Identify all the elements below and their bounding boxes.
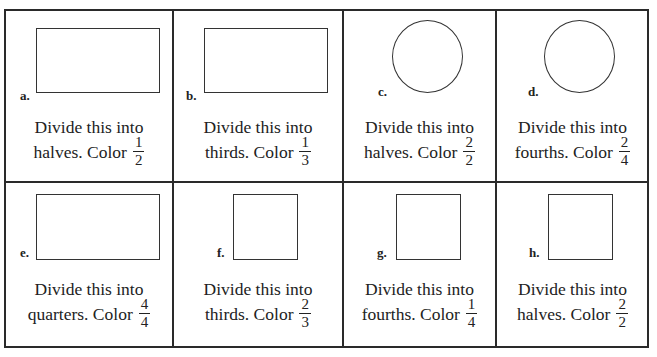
rectangle-shape <box>36 28 160 93</box>
problem-label: f. <box>217 245 225 261</box>
square-shape <box>396 194 461 260</box>
circle-shape <box>392 20 463 93</box>
problem-d: d. Divide this into fourths. Color24 <box>497 11 648 181</box>
problem-h: h. Divide this into halves. Color22 <box>497 183 648 348</box>
fraction: 12 <box>133 135 145 168</box>
problem-label: a. <box>20 88 30 104</box>
problem-b: b. Divide this into thirds. Color13 <box>174 11 342 181</box>
problem-g: g. Divide this into fourths. Color14 <box>344 183 495 348</box>
instruction-text: Divide this into halves. Color22 <box>344 117 495 170</box>
instruction-text: Divide this into halves. Color12 <box>6 117 172 170</box>
problem-label: d. <box>528 84 538 100</box>
instruction-text: Divide this into thirds. Color13 <box>174 117 342 170</box>
problem-c: c. Divide this into halves. Color22 <box>344 11 495 181</box>
fraction: 22 <box>463 135 475 168</box>
problem-label: g. <box>377 245 387 261</box>
fraction: 24 <box>619 135 631 168</box>
fraction: 44 <box>139 297 151 330</box>
instruction-text: Divide this into quarters. Color44 <box>6 279 172 332</box>
problem-label: e. <box>20 245 29 261</box>
fraction: 13 <box>299 135 311 168</box>
problem-label: h. <box>529 245 539 261</box>
problem-f: f. Divide this into thirds. Color23 <box>174 183 342 348</box>
rectangle-shape <box>36 194 160 260</box>
instruction-text: Divide this into fourths. Color24 <box>497 117 648 170</box>
problem-label: c. <box>378 84 387 100</box>
fraction: 23 <box>299 297 311 330</box>
square-shape <box>548 194 613 260</box>
fraction: 22 <box>616 297 628 330</box>
rectangle-shape <box>204 28 328 93</box>
instruction-text: Divide this into fourths. Color14 <box>344 279 495 332</box>
square-shape <box>233 194 298 260</box>
problem-label: b. <box>186 88 196 104</box>
problem-a: a. Divide this into halves. Color12 <box>6 11 172 181</box>
instruction-text: Divide this into thirds. Color23 <box>174 279 342 332</box>
circle-shape <box>544 20 615 93</box>
problem-e: e. Divide this into quarters. Color44 <box>6 183 172 348</box>
instruction-text: Divide this into halves. Color22 <box>497 279 648 332</box>
fraction: 14 <box>466 297 478 330</box>
